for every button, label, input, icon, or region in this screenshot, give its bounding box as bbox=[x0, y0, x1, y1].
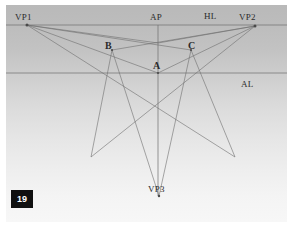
line-vp1-to-lower-right bbox=[27, 25, 235, 157]
construction-lines-group bbox=[27, 25, 255, 196]
line-b-to-vp3 bbox=[112, 50, 159, 196]
label-point-b: B bbox=[105, 41, 112, 51]
line-vertex-left-to-b bbox=[91, 50, 112, 157]
label-vp3: VP3 bbox=[148, 185, 165, 194]
vp1-marker bbox=[26, 24, 29, 27]
figure-root: VP1 VP2 VP3 AP HL AL B A C 19 bbox=[0, 0, 293, 228]
line-c-to-vp3 bbox=[159, 50, 191, 196]
line-vp2-to-a bbox=[158, 26, 255, 73]
label-point-a: A bbox=[153, 61, 160, 71]
label-vp2: VP2 bbox=[239, 13, 256, 22]
line-vertex-right-to-c bbox=[191, 50, 235, 157]
perspective-diagram-svg bbox=[6, 5, 287, 222]
line-vp1-to-a bbox=[27, 25, 158, 73]
vp3-marker bbox=[158, 195, 160, 197]
line-vp2-to-b bbox=[112, 26, 255, 50]
label-point-c: C bbox=[188, 41, 195, 51]
label-al: AL bbox=[241, 80, 253, 89]
perspective-diagram-plate: VP1 VP2 VP3 AP HL AL B A C bbox=[6, 5, 287, 222]
line-vp2-to-lower-left bbox=[91, 26, 255, 157]
vanishing-point-markers-group bbox=[26, 24, 257, 198]
guide-lines-group bbox=[6, 25, 287, 196]
figure-number-badge: 19 bbox=[11, 190, 33, 208]
label-vp1: VP1 bbox=[15, 13, 32, 22]
vp2-marker bbox=[254, 25, 257, 28]
label-hl: HL bbox=[204, 12, 216, 21]
label-ap: AP bbox=[150, 13, 162, 22]
point-a-marker bbox=[157, 72, 159, 74]
